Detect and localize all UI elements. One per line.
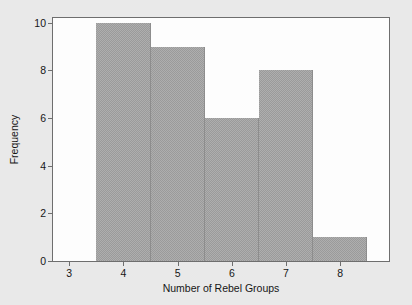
x-axis-tick-label: 6 <box>229 268 235 279</box>
x-axis-tick <box>340 261 341 266</box>
y-axis-tick <box>48 166 53 167</box>
y-axis-tick-label: 0 <box>40 256 46 267</box>
x-axis-tick <box>286 261 287 266</box>
y-axis-label: Frequency <box>8 17 21 262</box>
x-axis-tick-label: 3 <box>66 268 72 279</box>
histogram-bar <box>96 23 150 261</box>
y-axis-tick <box>48 70 53 71</box>
histogram-bar <box>259 70 313 261</box>
x-axis-label: Number of Rebel Groups <box>52 283 390 294</box>
plot-frame: 0246810345678 <box>52 17 390 262</box>
x-axis-tick-label: 4 <box>121 268 127 279</box>
histogram-bar <box>151 47 205 261</box>
y-axis-tick-label: 6 <box>40 113 46 124</box>
y-axis-tick <box>48 261 53 262</box>
histogram-figure: 0246810345678 Frequency Number of Rebel … <box>0 0 412 305</box>
x-axis-tick <box>69 261 70 266</box>
y-axis-tick-label: 4 <box>40 160 46 171</box>
histogram-bar <box>313 237 367 261</box>
y-axis-tick <box>48 23 53 24</box>
y-axis-tick-label: 8 <box>40 65 46 76</box>
x-axis-tick <box>178 261 179 266</box>
x-axis-tick-label: 8 <box>337 268 343 279</box>
plot-area <box>53 18 389 261</box>
y-axis-tick <box>48 213 53 214</box>
y-axis-tick <box>48 118 53 119</box>
y-axis-tick-label: 10 <box>34 18 46 29</box>
x-axis-tick-label: 7 <box>283 268 289 279</box>
histogram-bar <box>205 118 259 261</box>
y-axis-tick-label: 2 <box>40 208 46 219</box>
x-axis-tick-label: 5 <box>175 268 181 279</box>
x-axis-tick <box>123 261 124 266</box>
x-axis-tick <box>232 261 233 266</box>
